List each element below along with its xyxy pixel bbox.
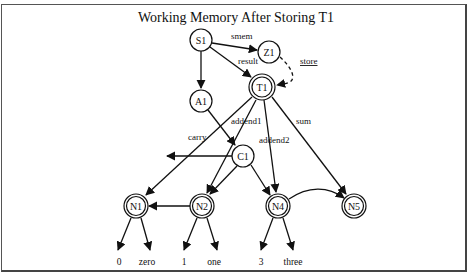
edge-label-sum: sum bbox=[296, 116, 311, 126]
node-a1[interactable]: A1 bbox=[190, 90, 212, 112]
leaf-n2-name: one bbox=[207, 257, 221, 267]
node-label: A1 bbox=[195, 96, 207, 107]
edge-n1-zero bbox=[141, 218, 150, 250]
edge-label-carry: carry bbox=[188, 132, 207, 142]
node-n5[interactable]: N5 bbox=[342, 194, 366, 218]
node-label: N4 bbox=[272, 201, 284, 212]
edge-n2-1 bbox=[184, 218, 197, 250]
node-label: T1 bbox=[256, 82, 267, 93]
node-label: S1 bbox=[196, 35, 207, 46]
node-n2[interactable]: N2 bbox=[190, 194, 214, 218]
node-label: N2 bbox=[196, 201, 208, 212]
edge-n2-one bbox=[207, 218, 217, 250]
edge-label-store: store bbox=[300, 56, 318, 66]
node-z1[interactable]: Z1 bbox=[258, 41, 280, 63]
node-label: N1 bbox=[130, 201, 142, 212]
node-t1[interactable]: T1 bbox=[249, 74, 275, 100]
leaf-n4-value: 3 bbox=[259, 257, 264, 267]
edge-n4-3 bbox=[261, 218, 273, 250]
diagram-title: Working Memory After Storing T1 bbox=[138, 10, 334, 25]
edge-z1-t1-store bbox=[277, 57, 293, 85]
edges bbox=[118, 43, 346, 250]
edge-t1-n4-addend2 bbox=[264, 100, 276, 192]
edge-label-smem: smem bbox=[231, 31, 253, 41]
node-n4[interactable]: N4 bbox=[266, 194, 290, 218]
edge-n4-three bbox=[283, 218, 293, 250]
edge-t1-n5-sum bbox=[272, 97, 346, 194]
leaf-n2-value: 1 bbox=[182, 257, 187, 267]
node-label: N5 bbox=[348, 201, 360, 212]
leaf-n4-name: three bbox=[284, 257, 303, 267]
edge-label-addend2: addend2 bbox=[259, 135, 290, 145]
edge-s1-z1 bbox=[212, 43, 257, 50]
leaf-n1-name: zero bbox=[139, 257, 156, 267]
node-s1[interactable]: S1 bbox=[190, 29, 212, 51]
node-n1[interactable]: N1 bbox=[124, 194, 148, 218]
node-label: Z1 bbox=[263, 47, 274, 58]
edge-n1-0 bbox=[118, 218, 131, 250]
node-label: C1 bbox=[237, 151, 249, 162]
edge-label-addend1: addend1 bbox=[231, 116, 262, 126]
edge-c1-n4 bbox=[251, 165, 270, 195]
node-c1[interactable]: C1 bbox=[232, 145, 254, 167]
working-memory-graph: Working Memory After Storing T1 smem res… bbox=[0, 0, 471, 276]
edge-label-result: result bbox=[238, 56, 258, 66]
leaf-n1-value: 0 bbox=[117, 257, 122, 267]
edge-n4-n5 bbox=[289, 189, 344, 199]
